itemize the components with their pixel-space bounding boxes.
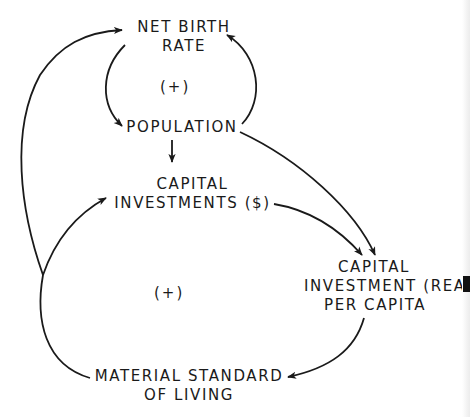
node-capital-investments-line1: CAPITAL	[110, 175, 275, 194]
node-net-birth-rate-line2: RATE	[128, 37, 240, 56]
node-per-capita-line2: INVESTMENT (REA	[304, 277, 470, 296]
page-edge-shadow	[462, 0, 470, 417]
node-net-birth-rate-line1: NET BIRTH	[128, 18, 240, 37]
node-material-standard-line1: MATERIAL STANDARD	[94, 367, 284, 386]
node-capital-investment-per-capita: CAPITAL INVESTMENT (REA PER CAPITA	[304, 258, 470, 315]
node-material-standard-of-living: MATERIAL STANDARD OF LIVING	[94, 367, 284, 405]
arrow-capital-investments-to-per-capita	[274, 204, 362, 255]
arrow-per-capita-to-material-standard	[288, 318, 364, 377]
arrow-material-standard-to-capital-investments	[40, 198, 106, 378]
node-capital-investments: CAPITAL INVESTMENTS ($)	[110, 175, 275, 213]
node-population: POPULATION	[122, 118, 242, 137]
arrow-material-standard-to-birthrate	[21, 30, 122, 275]
node-per-capita-line3: PER CAPITA	[304, 296, 470, 315]
node-net-birth-rate: NET BIRTH RATE	[128, 18, 240, 56]
causal-loop-diagram: NET BIRTH RATE (+) POPULATION CAPITAL IN…	[0, 0, 470, 417]
loop-sign-upper: (+)	[160, 78, 190, 96]
arrow-birthrate-to-population	[106, 45, 125, 126]
node-material-standard-line2: OF LIVING	[94, 386, 284, 405]
cropped-text-fragment	[463, 276, 470, 292]
loop-sign-lower: (+)	[154, 284, 184, 302]
node-capital-investments-line2: INVESTMENTS ($)	[110, 194, 275, 213]
node-population-line1: POPULATION	[122, 118, 242, 137]
node-per-capita-line1: CAPITAL	[304, 258, 470, 277]
